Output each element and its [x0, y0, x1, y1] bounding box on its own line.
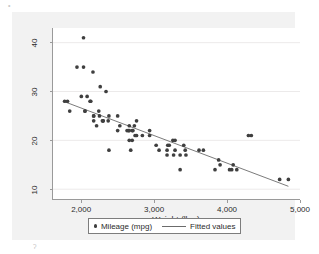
dot-marker-icon [94, 224, 97, 227]
y-tick-40: 40 [26, 38, 50, 48]
scatter-point [231, 163, 235, 167]
scatter-point [97, 109, 101, 113]
scatter-point [135, 119, 139, 123]
scan-artifact-bottom: ʔ [33, 243, 37, 250]
plot-svg [53, 28, 300, 199]
scatter-point [148, 129, 152, 133]
scatter-point [129, 148, 133, 152]
scatter-point [213, 168, 217, 172]
scatter-point [228, 168, 232, 172]
scatter-point [218, 163, 222, 167]
scatter-point [178, 153, 182, 157]
legend-label-mileage: Mileage (mpg) [101, 222, 152, 231]
x-tick-label: 3,000 [134, 205, 174, 214]
scatter-point [165, 148, 169, 152]
legend-entry-mileage: Mileage (mpg) [89, 222, 158, 231]
y-tick-label: 10 [30, 178, 40, 202]
line-marker-icon [162, 226, 186, 227]
scatter-point [83, 109, 87, 113]
scatter-point [116, 114, 120, 118]
scatter-point [165, 153, 169, 157]
scatter-point [235, 168, 239, 172]
scatter-point [107, 148, 111, 152]
screenshot-page: • 10203040 2,0003,0004,0005,000 Weight (… [0, 0, 319, 254]
fitted-line [65, 102, 289, 187]
scatter-point [107, 114, 111, 118]
x-tick-label: 4,000 [207, 205, 247, 214]
scatter-point [89, 99, 93, 103]
scatter-point [287, 178, 291, 182]
legend-label-fitted: Fitted values [190, 222, 235, 231]
scatter-point [154, 143, 158, 147]
y-axis-tick-labels: 10203040 [26, 28, 50, 200]
scatter-point [202, 148, 206, 152]
scan-artifact-top: • [8, 2, 10, 9]
scatter-point [197, 148, 201, 152]
scatter-point [182, 143, 186, 147]
x-tick-label: 5,000 [280, 205, 319, 214]
x-axis-tick-labels: 2,0003,0004,0005,000 [52, 202, 300, 216]
x-tick-label: 2,000 [61, 205, 101, 214]
scatter-point [157, 148, 161, 152]
scatter-point [98, 85, 102, 89]
scatter-point [184, 153, 188, 157]
y-tick-label: 40 [30, 31, 40, 55]
scatter-point [247, 134, 251, 138]
scatter-point [127, 124, 131, 128]
scatter-point [278, 178, 282, 182]
scatter-point [173, 139, 177, 143]
scatter-point [141, 134, 145, 138]
x-tick-mark [81, 200, 82, 203]
scatter-point [118, 124, 122, 128]
scatter-point [92, 114, 96, 118]
scatter-point [98, 114, 102, 118]
y-tick-label: 30 [30, 80, 40, 104]
scatter-point [101, 119, 105, 123]
scatter-point [135, 134, 139, 138]
graph-region: 10203040 2,0003,0004,0005,000 Weight (lb… [12, 12, 295, 240]
scatter-point [178, 168, 182, 172]
scatter-point [167, 143, 171, 147]
scatter-point [116, 129, 120, 133]
scatter-point [85, 95, 89, 99]
scatter-point [106, 119, 110, 123]
scatter-point [82, 65, 86, 69]
x-tick-mark [227, 200, 228, 203]
scatter-point [82, 36, 86, 40]
scatter-point [104, 90, 108, 94]
plot-area [52, 28, 300, 200]
scatter-point [172, 153, 176, 157]
scatter-point [75, 65, 79, 69]
x-tick-mark [154, 200, 155, 203]
y-tick-30: 30 [26, 87, 50, 97]
scatter-point [183, 148, 187, 152]
scatter-point [92, 119, 96, 123]
x-tick-mark [300, 200, 301, 203]
scatter-point [95, 124, 99, 128]
legend-entry-fitted: Fitted values [157, 222, 240, 231]
y-tick-label: 20 [30, 129, 40, 153]
scatter-point [127, 129, 131, 133]
scatter-point [63, 99, 67, 103]
scatter-point [79, 95, 83, 99]
scatter-point [131, 129, 135, 133]
y-tick-10: 10 [26, 185, 50, 195]
scatter-point [68, 109, 72, 113]
y-tick-20: 20 [26, 136, 50, 146]
scatter-point [133, 124, 137, 128]
chart-legend: Mileage (mpg) Fitted values [88, 218, 241, 234]
scatter-point [217, 158, 221, 162]
scatter-point [127, 139, 131, 143]
scatter-point [91, 70, 95, 74]
scatter-point [148, 134, 152, 138]
scatter-point [173, 148, 177, 152]
